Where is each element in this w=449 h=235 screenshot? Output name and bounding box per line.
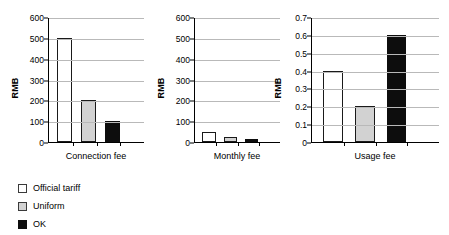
bar-official-tariff (202, 132, 215, 142)
x-axis-tick-mark (344, 142, 345, 146)
gridline (49, 122, 144, 123)
y-axis-tick-label: 400 (150, 55, 190, 64)
y-axis-tick-label: 100 (4, 118, 44, 127)
y-axis-tick-label: 0.7 (267, 14, 307, 23)
gridline (312, 54, 439, 55)
x-axis-tick-mark (376, 142, 377, 146)
legend-swatch-icon (18, 202, 27, 211)
x-axis-tick-mark (238, 142, 239, 146)
gridline (312, 36, 439, 37)
bar-ok (105, 121, 120, 142)
y-axis-tick-label: 0 (150, 139, 190, 148)
y-axis-tick-label: 0.5 (267, 49, 307, 58)
bar-ok (245, 139, 258, 142)
y-axis-tick-label: 300 (4, 76, 44, 85)
chart-panel-monthly-fee: RMB 0100200300400500600 Monthly fee (150, 0, 286, 175)
gridline (49, 18, 144, 19)
bar-official-tariff (323, 71, 343, 142)
plot-area (311, 18, 439, 143)
y-axis-tick-label: 200 (4, 97, 44, 106)
x-axis-tick-mark (120, 142, 121, 146)
legend-item: OK (18, 216, 80, 232)
gridline (312, 125, 439, 126)
y-axis-tick-label: 0.3 (267, 85, 307, 94)
y-axis-tick-label: 500 (4, 35, 44, 44)
legend-swatch-icon (18, 184, 27, 193)
chart-legend: Official tariffUniformOK (18, 180, 80, 234)
gridline (49, 81, 144, 82)
y-axis-tick-label: 0.2 (267, 103, 307, 112)
x-axis-tick-mark (216, 142, 217, 146)
y-axis-tick-label: 0 (4, 139, 44, 148)
y-axis-tick-labels: 00.10.20.30.40.50.60.7 (267, 0, 311, 175)
bar-chart-figure: RMB 0100200300400500600 Connection fee R… (0, 0, 449, 235)
legend-item: Uniform (18, 198, 80, 214)
bar-uniform (355, 106, 375, 142)
x-axis-tick-mark (73, 142, 74, 146)
y-axis-tick-label: 0 (267, 139, 307, 148)
y-axis-tick-labels: 0100200300400500600 (4, 0, 48, 175)
bar-official-tariff (57, 38, 72, 142)
legend-swatch-icon (18, 220, 27, 229)
x-axis-label: Usage fee (311, 151, 439, 161)
gridline (312, 107, 439, 108)
y-axis-tick-label: 0.4 (267, 67, 307, 76)
gridline (49, 39, 144, 40)
gridline (49, 60, 144, 61)
y-axis-tick-labels: 0100200300400500600 (150, 0, 194, 175)
x-axis-tick-mark (407, 142, 408, 146)
y-axis-tick-label: 200 (150, 97, 190, 106)
gridline (312, 89, 439, 90)
bar-uniform (224, 137, 237, 142)
legend-item-label: Official tariff (33, 184, 80, 193)
y-axis-tick-label: 600 (4, 14, 44, 23)
legend-item-label: Uniform (33, 202, 65, 211)
y-axis-tick-label: 400 (4, 55, 44, 64)
gridline (312, 72, 439, 73)
legend-item-label: OK (33, 220, 46, 229)
y-axis-tick-label: 300 (150, 76, 190, 85)
x-axis-tick-mark (259, 142, 260, 146)
y-axis-tick-label: 0.6 (267, 32, 307, 41)
gridline (312, 18, 439, 19)
plot-area (48, 18, 144, 143)
chart-panel-connection-fee: RMB 0100200300400500600 Connection fee (4, 0, 150, 175)
gridline (49, 101, 144, 102)
chart-panel-usage-fee: RMB 00.10.20.30.40.50.60.7 Usage fee (267, 0, 447, 175)
x-axis-label: Connection fee (48, 151, 144, 161)
y-axis-tick-label: 100 (150, 118, 190, 127)
y-axis-tick-label: 500 (150, 35, 190, 44)
x-axis-tick-mark (97, 142, 98, 146)
legend-item: Official tariff (18, 180, 80, 196)
y-axis-tick-label: 0.1 (267, 121, 307, 130)
y-axis-tick-label: 600 (150, 14, 190, 23)
